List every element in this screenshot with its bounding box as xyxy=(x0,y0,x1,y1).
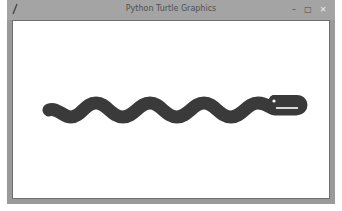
maximize-button[interactable]: □ xyxy=(301,3,315,15)
window-title: Python Turtle Graphics xyxy=(7,4,335,13)
turtle-canvas[interactable] xyxy=(12,20,330,199)
snake-eye xyxy=(272,99,275,102)
turtle-window: Python Turtle Graphics – □ ✕ xyxy=(7,0,335,204)
snake-drawing xyxy=(13,21,331,200)
minimize-icon: – xyxy=(292,5,296,14)
close-button[interactable]: ✕ xyxy=(316,3,330,15)
minimize-button[interactable]: – xyxy=(287,3,301,15)
maximize-icon: □ xyxy=(304,5,312,14)
snake-body xyxy=(49,103,296,117)
close-icon: ✕ xyxy=(320,5,327,14)
title-bar[interactable]: Python Turtle Graphics – □ ✕ xyxy=(7,0,335,20)
